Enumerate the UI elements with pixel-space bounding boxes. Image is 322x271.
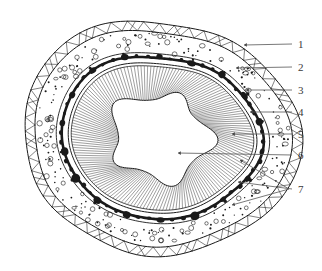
label-number-2: 2 [298,62,304,73]
label-number-4: 4 [298,107,304,118]
label-number-7: 7 [298,184,304,195]
cross-section-drawing [0,0,322,271]
label-number-5: 5 [298,129,304,140]
label-number-1: 1 [298,39,304,50]
label-number-3: 3 [298,85,304,96]
figure-root: 1234567 [0,0,322,271]
label-number-6: 6 [298,150,304,161]
